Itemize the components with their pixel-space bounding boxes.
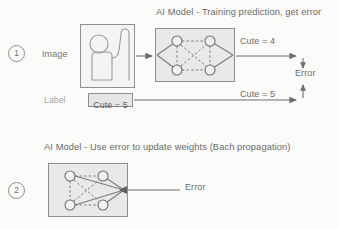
diagram-canvas: 1 Image AI Model - Training prediction, …	[0, 0, 338, 229]
diagram-strokes	[0, 0, 338, 229]
forward-network-graph	[157, 36, 233, 75]
backward-network-graph	[65, 171, 127, 210]
person-raising-hand-icon	[90, 29, 129, 80]
